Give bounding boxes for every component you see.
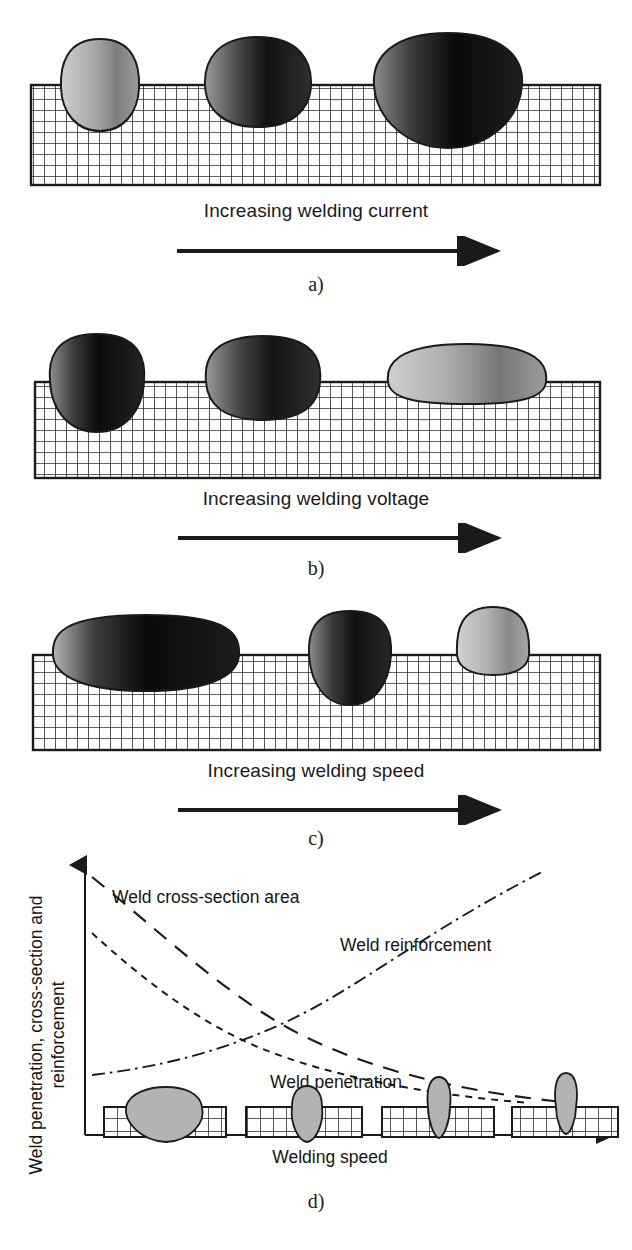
panel-c: Increasing welding speed c) bbox=[0, 595, 632, 845]
panel-c-caption: Increasing welding speed bbox=[0, 760, 632, 782]
weld-bead-c-1 bbox=[53, 615, 239, 691]
weld-bead-c-3 bbox=[457, 607, 529, 675]
weld-bead-b-2 bbox=[206, 336, 321, 420]
panel-c-arrow bbox=[0, 795, 632, 825]
label-weld-reinforcement: Weld reinforcement bbox=[340, 935, 492, 955]
chart-ylabel-line-1: Weld penetration, cross-section and bbox=[26, 896, 46, 1175]
panel-d: Weld penetration, cross-section and rein… bbox=[0, 845, 632, 1250]
panel-b-caption: Increasing welding voltage bbox=[0, 488, 632, 510]
weld-bead-a-2 bbox=[205, 37, 311, 127]
panel-a-arrow bbox=[0, 236, 632, 266]
weld-bead-b-1 bbox=[50, 334, 145, 432]
weld-inset-1 bbox=[104, 1087, 226, 1142]
weld-inset-4 bbox=[512, 1073, 618, 1137]
weld-bead-a-1 bbox=[61, 39, 139, 131]
curve-weld-cross-section-area bbox=[92, 877, 572, 1103]
panel-b-graphic bbox=[0, 320, 632, 510]
panel-b: Increasing welding voltage b) bbox=[0, 320, 632, 590]
panel-a: Increasing welding current a) bbox=[0, 0, 632, 300]
panel-a-letter: a) bbox=[0, 273, 632, 296]
panel-a-caption: Increasing welding current bbox=[0, 200, 632, 222]
chart-ylabel: Weld penetration, cross-section and rein… bbox=[26, 896, 68, 1175]
label-weld-penetration: Weld penetration bbox=[270, 1072, 402, 1092]
weld-bead-c-2 bbox=[309, 611, 391, 705]
weld-bead-b-3 bbox=[388, 344, 547, 404]
chart-ylabel-line-2: reinforcement bbox=[48, 981, 68, 1088]
weld-inset-2 bbox=[246, 1086, 362, 1142]
label-weld-cross-section-area: Weld cross-section area bbox=[112, 887, 300, 907]
panel-c-graphic bbox=[0, 595, 632, 760]
panel-b-arrow bbox=[0, 523, 632, 553]
panel-b-letter: b) bbox=[0, 557, 632, 580]
welding-parameters-figure: Increasing welding current a) bbox=[0, 0, 632, 1250]
chart-xlabel: Welding speed bbox=[272, 1147, 387, 1167]
chart-graphic: Weld penetration, cross-section and rein… bbox=[0, 845, 632, 1205]
panel-d-letter: d) bbox=[0, 1190, 632, 1213]
